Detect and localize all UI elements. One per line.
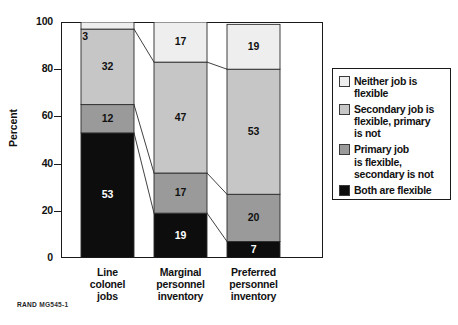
source-note: RAND MG545-1 — [17, 301, 68, 308]
bar-segment — [154, 173, 207, 213]
segment-connector-line — [207, 173, 227, 194]
legend-label-line: secondary is not — [354, 168, 433, 180]
bar-segment — [81, 22, 134, 29]
legend-swatch-icon — [339, 185, 350, 196]
y-axis-tick-label-80: 80 — [27, 62, 53, 74]
y-axis-tick-mark-80 — [54, 69, 61, 70]
y-axis-tick-label-100: 100 — [27, 15, 53, 27]
legend-label-line: Primary job — [354, 143, 433, 155]
bar-segment — [81, 133, 134, 258]
bar-segment — [227, 194, 280, 241]
y-axis-tick-label-0: 0 — [27, 251, 53, 263]
x-axis-category-line: Preferred — [203, 266, 304, 278]
legend-label-line: Both are flexible — [354, 184, 431, 196]
legend-item-label: Neither job isflexible — [354, 75, 417, 99]
bar-segment — [154, 62, 207, 173]
figure-stacked-bar-chart: Percent 100806040200 5312323191747177205… — [0, 0, 458, 325]
bar-segment — [154, 22, 207, 62]
legend-item-4: Both are flexible — [339, 184, 445, 196]
y-axis-title: Percent — [7, 98, 19, 158]
segment-connector-line — [134, 29, 154, 62]
legend-item-label: Both are flexible — [354, 184, 431, 196]
segment-connector-line — [134, 105, 154, 173]
bar-segment — [81, 105, 134, 133]
y-axis-tick-mark-40 — [54, 164, 61, 165]
source-note-prefix: RAND — [17, 301, 37, 308]
bar-segment — [81, 29, 134, 105]
bar-segment — [227, 69, 280, 194]
y-axis-tick-mark-60 — [54, 116, 61, 117]
y-axis-tick-label-60: 60 — [27, 109, 53, 121]
legend-label-line: Neither job is — [354, 75, 417, 87]
legend-label-line: is flexible, — [354, 156, 433, 168]
legend-swatch-icon — [339, 76, 350, 87]
plot-graphics — [61, 22, 323, 258]
source-note-id: MG545-1 — [39, 301, 68, 308]
legend-label-line: is not — [354, 127, 434, 139]
x-axis-category-label-3: Preferredpersonnelinventory — [203, 266, 304, 303]
legend-label-line: Secondary job is — [354, 103, 434, 115]
x-axis-category-line: personnel — [203, 278, 304, 290]
legend-label-line: flexible, primary — [354, 115, 434, 127]
bar-segment — [227, 24, 280, 69]
legend-item-3: Primary jobis flexible,secondary is not — [339, 143, 445, 179]
legend-swatch-icon — [339, 144, 350, 155]
segment-connector-line — [134, 133, 154, 213]
bar-segment — [227, 241, 280, 258]
legend-label-line: flexible — [354, 87, 417, 99]
legend-row-group: Neither job isflexibleSecondary job isfl… — [339, 75, 445, 196]
segment-connector-line — [207, 213, 227, 241]
chart-legend: Neither job isflexibleSecondary job isfl… — [332, 68, 451, 200]
legend-item-1: Neither job isflexible — [339, 75, 445, 99]
legend-item-label: Secondary job isflexible, primaryis not — [354, 103, 434, 139]
x-axis-category-line: inventory — [203, 290, 304, 302]
bar-segment — [154, 213, 207, 258]
y-axis-tick-label-20: 20 — [27, 204, 53, 216]
y-axis-tick-label-40: 40 — [27, 157, 53, 169]
segment-connector-line — [207, 62, 227, 69]
legend-item-label: Primary jobis flexible,secondary is not — [354, 143, 433, 179]
legend-swatch-icon — [339, 104, 350, 115]
legend-item-2: Secondary job isflexible, primaryis not — [339, 103, 445, 139]
y-axis-tick-mark-20 — [54, 211, 61, 212]
